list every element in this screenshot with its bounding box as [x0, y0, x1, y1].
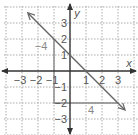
run-label: 4 — [88, 104, 94, 116]
y-tick-label: 3 — [61, 17, 67, 29]
graph-canvas: −44 xy −3−2−1123321−1−2−3 — [0, 0, 138, 135]
rise-label: −4 — [35, 40, 48, 52]
x-tick-label: 3 — [115, 74, 121, 86]
x-tick-label: −3 — [14, 74, 27, 86]
y-tick-label: −3 — [54, 113, 67, 125]
y-tick-label: −2 — [54, 97, 67, 109]
y-tick-label: 1 — [61, 49, 67, 61]
x-tick-label: −2 — [30, 74, 43, 86]
y-tick-label: −1 — [54, 81, 67, 93]
x-tick-label: 1 — [83, 74, 89, 86]
y-axis-label: y — [73, 7, 81, 19]
line-y-equals-neg-x-plus-1 — [28, 13, 124, 109]
y-tick-label: 2 — [61, 33, 67, 45]
x-axis-label: x — [125, 57, 132, 69]
coordinate-graph: −44 xy −3−2−1123321−1−2−3 — [0, 0, 138, 135]
x-tick-label: 2 — [99, 74, 105, 86]
graphed-line — [28, 13, 124, 109]
